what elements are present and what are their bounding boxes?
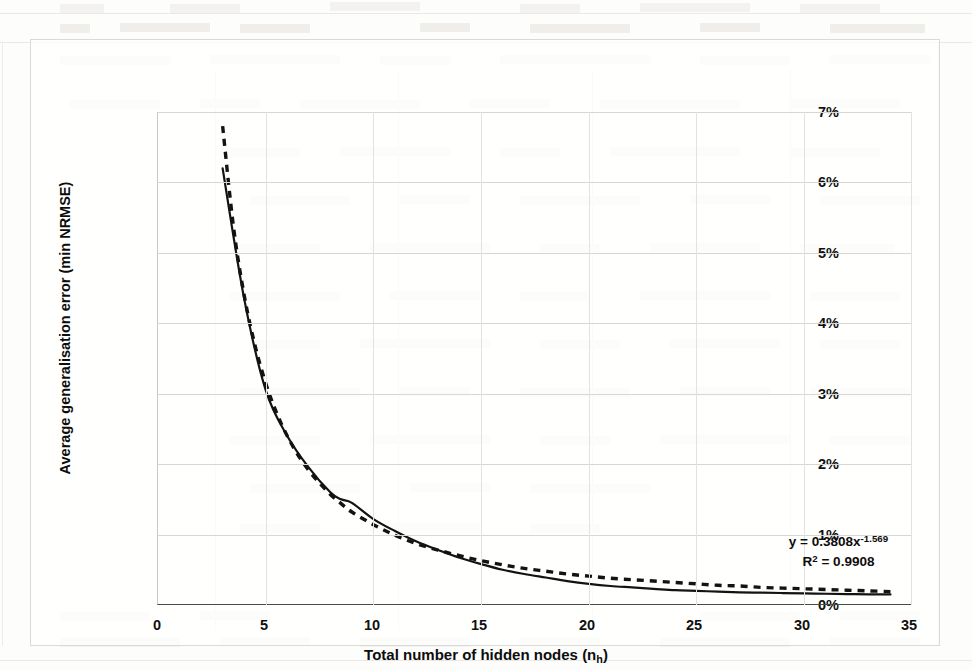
x-tick-label-30: 30: [782, 618, 822, 633]
gridline-x20: [589, 112, 590, 605]
x-tick-label-5: 5: [244, 618, 284, 633]
r-squared-value: R2 = 0.9908: [731, 552, 946, 572]
gridline-3pct: [158, 394, 912, 395]
gridline-7pct: [158, 112, 912, 113]
chart-container: Average generalisation error (min NRMSE)…: [30, 39, 940, 646]
gridline-x10: [373, 112, 374, 605]
r-squared-label: R: [803, 554, 813, 569]
x-tick-label-15: 15: [459, 618, 499, 633]
r-squared-number: = 0.9908: [818, 554, 875, 569]
trendline-equation-annotation: y = 0.3808x-1.569 R2 = 0.9908: [731, 532, 946, 571]
x-axis-title-main: Total number of hidden nodes (n: [364, 646, 596, 663]
gridline-x5: [266, 112, 267, 605]
gridline-4pct: [158, 323, 912, 324]
equation-text: y = 0.3808x: [789, 534, 861, 549]
scanned-page: Average generalisation error (min NRMSE)…: [0, 0, 972, 670]
x-axis-title-end: ): [603, 646, 608, 663]
gridline-2pct: [158, 464, 912, 465]
equation-exponent: -1.569: [861, 533, 889, 544]
x-tick-label-20: 20: [567, 618, 607, 633]
generalisation-error-curve: [223, 168, 891, 594]
y-axis-title: Average generalisation error (min NRMSE): [57, 113, 73, 543]
x-axis-title: Total number of hidden nodes (nh): [31, 646, 941, 665]
x-tick-label-0: 0: [137, 618, 177, 633]
x-tick-label-35: 35: [889, 618, 929, 633]
gridline-5pct: [158, 253, 912, 254]
gridline-x25: [696, 112, 697, 605]
x-tick-label-25: 25: [674, 618, 714, 633]
x-tick-label-10: 10: [352, 618, 392, 633]
gridline-x15: [481, 112, 482, 605]
trendline-equation: y = 0.3808x-1.569: [731, 532, 946, 552]
x-axis-title-subscript: h: [596, 653, 603, 665]
gridline-6pct: [158, 182, 912, 183]
power-trendline-path: [223, 126, 891, 592]
